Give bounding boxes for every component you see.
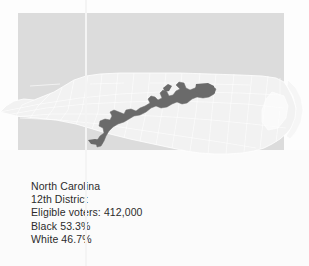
caption-white-share: White 46.7% <box>31 233 261 246</box>
caption-district: 12th District <box>31 193 261 206</box>
caption-eligible-voters: Eligible voters: 412,000 <box>31 206 261 219</box>
map-caption: North Carolina 12th District Eligible vo… <box>31 180 261 246</box>
caption-state: North Carolina <box>31 180 261 193</box>
caption-black-share: Black 53.3% <box>31 220 261 233</box>
vertical-seam-line <box>85 0 87 266</box>
figure-canvas: North Carolina 12th District Eligible vo… <box>0 0 309 266</box>
